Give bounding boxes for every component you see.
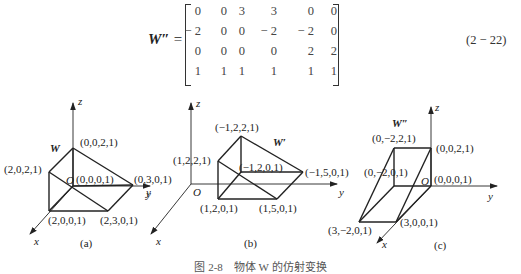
point-label: (0,0,2,1) — [436, 142, 474, 155]
figure-a-labels: z y x W O (0,0,2,1) (2,0,2,1) (0,0,0,1) … — [4, 95, 172, 250]
point-label: (3,−2,0,1) — [328, 224, 372, 237]
point-label: (−1,2,0,1) — [239, 161, 283, 174]
x-label-c: x — [381, 238, 387, 250]
y-label-a-right: y — [145, 186, 151, 198]
y-label-c: y — [487, 190, 493, 202]
object-label-w-double-prime: W″ — [392, 117, 408, 129]
object-label-w: W — [50, 142, 61, 154]
origin-label-b: O — [193, 186, 201, 198]
figure-b-caption: (b) — [244, 237, 257, 250]
point-label: (0,0,0,1) — [434, 173, 472, 186]
origin-label-c: O — [421, 175, 429, 187]
point-label: (1,2,2,1) — [173, 154, 211, 167]
object-label-w-prime: W′ — [273, 136, 286, 148]
figure-c-caption: (c) — [434, 239, 447, 252]
figure-c-labels: z y y x O W″ (0,−2,2,1) (0,0,2,1) (0,−2,… — [328, 101, 493, 252]
point-label: (1,2,0,1) — [200, 202, 238, 215]
point-label: (2,3,0,1) — [100, 214, 138, 227]
z-label-a: z — [77, 95, 83, 107]
y-label-b-right: y — [338, 186, 344, 198]
point-label: (−1,2,2,1) — [215, 121, 259, 134]
point-label: (3,0,0,1) — [400, 216, 438, 229]
figure-caption: 图 2-8 物体 W 的仿射变换 — [0, 258, 521, 274]
z-label-b: z — [195, 97, 201, 109]
figure-b-labels: z y x O W′ (−1,2,2,1) (1,2,2,1) (−1,2,0,… — [145, 97, 349, 250]
point-label: (0,−2,0,1) — [364, 166, 408, 179]
point-label: (0,3,0,1) — [134, 173, 172, 186]
point-label: (0,0,2,1) — [80, 136, 118, 149]
origin-label-a: O — [66, 174, 74, 186]
x-label-b: x — [155, 235, 161, 247]
x-label-a: x — [33, 235, 39, 247]
point-label: (−1,5,0,1) — [305, 166, 349, 179]
point-label: (1,5,0,1) — [259, 202, 297, 215]
point-label: (0,−2,2,1) — [372, 132, 416, 145]
x-axis-b — [151, 184, 191, 234]
point-label: (2,0,0,1) — [48, 214, 86, 227]
z-label-c: z — [434, 101, 440, 113]
point-label: (0,0,0,1) — [76, 173, 114, 186]
figure-a-caption: (a) — [80, 237, 93, 250]
point-label: (2,0,2,1) — [4, 163, 42, 176]
